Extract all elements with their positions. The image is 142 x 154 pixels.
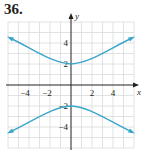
y-axis-label: y: [74, 11, 79, 21]
tick-y--4: −4: [58, 122, 68, 132]
tick-x--4: −4: [20, 88, 30, 98]
y-axis-arrow-icon: [69, 13, 74, 19]
tick-x--2: −2: [42, 88, 52, 98]
graph: −4 −2 2 4 4 2 −2 −4 x y: [0, 0, 142, 154]
x-axis-label: x: [136, 87, 141, 97]
axes: [6, 18, 136, 150]
tick-y-4: 4: [64, 38, 69, 48]
tick-x-2: 2: [90, 88, 95, 98]
tick-x-4: 4: [111, 88, 116, 98]
